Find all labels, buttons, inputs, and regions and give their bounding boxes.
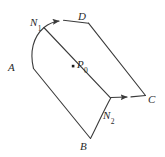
- surface-patch-drawing: [0, 0, 165, 157]
- label-corner-b: B: [80, 141, 87, 152]
- edge-d-to-c: [89, 23, 146, 95]
- edge-n2-to-c: [131, 96, 146, 97]
- point-marker-p0: [72, 65, 75, 68]
- label-corner-c: C: [148, 94, 155, 105]
- label-corner-a: A: [8, 62, 15, 73]
- arrow-n2-vector: [111, 97, 127, 98]
- label-point-p0: P0: [77, 59, 87, 73]
- label-corner-d: D: [78, 11, 86, 22]
- arrow-n1-vector: [44, 21, 59, 28]
- label-normal-1: N1: [30, 17, 41, 31]
- edge-a-to-b: [34, 69, 91, 139]
- label-normal-2: N2: [103, 110, 114, 124]
- edge-arc-a-to-n1: [32, 28, 44, 69]
- figure-container: A B C D N1 N2 P0: [0, 0, 165, 157]
